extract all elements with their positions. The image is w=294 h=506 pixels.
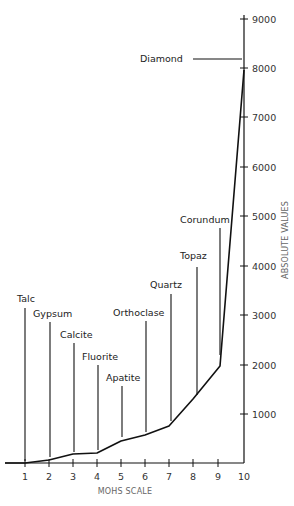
label-topaz: Topaz (179, 250, 207, 261)
svg-text:5000: 5000 (252, 211, 276, 222)
label-apatite: Apatite (106, 372, 140, 383)
svg-text:7000: 7000 (252, 112, 276, 123)
label-orthoclase: Orthoclase (113, 307, 165, 318)
label-corundum: Corundum (180, 214, 230, 225)
svg-text:3: 3 (70, 471, 76, 482)
svg-text:4000: 4000 (252, 261, 276, 272)
x-tick-labels: 1 2 3 4 5 6 7 8 9 10 (22, 471, 250, 482)
hardness-curve (5, 70, 244, 463)
label-gypsum: Gypsum (33, 308, 72, 319)
svg-text:1000: 1000 (252, 409, 276, 420)
svg-text:8000: 8000 (252, 63, 276, 74)
label-talc: Talc (16, 293, 35, 304)
svg-text:2: 2 (46, 471, 52, 482)
y-axis-title: ABSOLUTE VALUES (281, 201, 290, 279)
svg-text:2000: 2000 (252, 360, 276, 371)
x-axis-title: MOHS SCALE (98, 487, 152, 496)
svg-text:6: 6 (142, 471, 148, 482)
svg-text:6000: 6000 (252, 162, 276, 173)
mohs-hardness-chart: 1 2 3 4 5 6 7 8 9 10 MOHS SCALE 1000 200… (0, 0, 294, 506)
svg-text:4: 4 (94, 471, 100, 482)
label-fluorite: Fluorite (82, 351, 118, 362)
mineral-labels: Talc Gypsum Calcite Fluorite Apatite Ort… (16, 53, 230, 383)
label-diamond: Diamond (140, 53, 183, 64)
label-quartz: Quartz (150, 279, 182, 290)
leader-lines (25, 59, 242, 461)
svg-text:1: 1 (22, 471, 28, 482)
svg-text:9000: 9000 (252, 14, 276, 25)
svg-text:9: 9 (215, 471, 221, 482)
svg-text:8: 8 (190, 471, 196, 482)
y-tick-labels: 1000 2000 3000 4000 5000 6000 7000 8000 … (252, 14, 276, 420)
label-calcite: Calcite (60, 329, 93, 340)
svg-text:7: 7 (166, 471, 172, 482)
svg-text:5: 5 (118, 471, 124, 482)
svg-text:3000: 3000 (252, 310, 276, 321)
svg-text:10: 10 (238, 471, 250, 482)
